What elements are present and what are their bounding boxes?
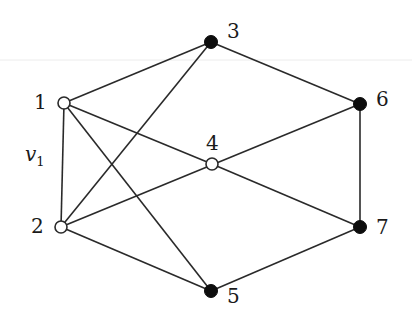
edge-1-3	[64, 42, 211, 103]
edge-1-2	[61, 103, 64, 227]
node-label-4: 4	[206, 131, 219, 155]
node-label-3: 3	[227, 19, 240, 43]
node-2	[55, 221, 67, 233]
edge-2-5	[61, 227, 211, 291]
nodes-group	[55, 36, 367, 298]
node-label-5: 5	[227, 284, 240, 308]
graph-diagram: 1234567 v1	[0, 0, 412, 326]
node-label-7: 7	[376, 215, 389, 239]
edge-2-3	[61, 42, 211, 227]
node-7	[354, 221, 367, 234]
node-6	[354, 98, 367, 111]
node-4	[206, 158, 218, 170]
node-5	[205, 285, 218, 298]
node-label-2: 2	[31, 214, 44, 238]
edge-3-6	[211, 42, 360, 104]
edge-1-4	[64, 103, 212, 164]
v1-annotation: v1	[25, 142, 45, 169]
node-label-1: 1	[34, 90, 47, 114]
node-label-6: 6	[376, 87, 389, 111]
node-1	[58, 97, 70, 109]
edge-4-7	[212, 164, 360, 227]
node-3	[205, 36, 218, 49]
edge-5-7	[211, 227, 360, 291]
